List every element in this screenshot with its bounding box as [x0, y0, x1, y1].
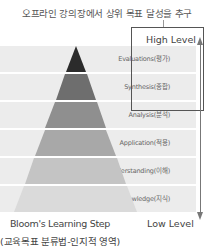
footer-title: Bloom's Learning Step: [0, 218, 120, 229]
pyramid-tier-synthesis: [56, 74, 96, 100]
pyramid-tier-knowledge: [14, 186, 137, 212]
level-axis-line: [200, 44, 201, 212]
pyramid-tier-analysis: [45, 102, 106, 128]
pyramid-tier-understanding: [25, 158, 126, 184]
low-level-label: Low Level: [147, 218, 194, 229]
high-level-label: High Level: [146, 34, 196, 45]
pyramid-tier-evaluations: [66, 46, 86, 72]
footer-subtitle: (교육목표 분류법-인지적 영역): [0, 234, 120, 248]
arrow-down-icon: [197, 212, 203, 220]
pyramid-tier-application: [35, 130, 116, 156]
